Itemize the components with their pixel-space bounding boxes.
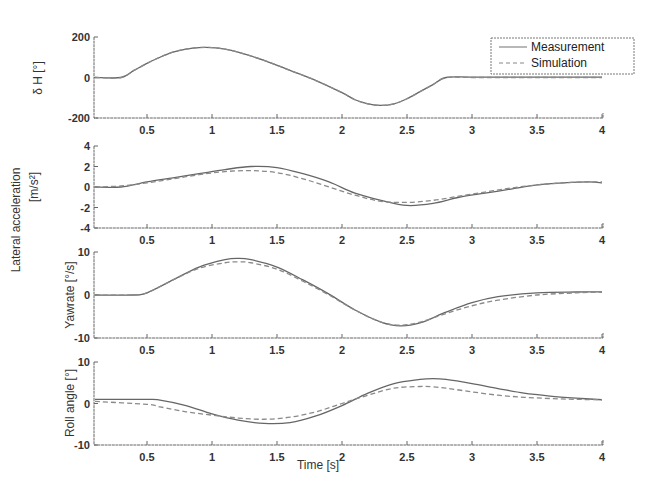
x-tick-label: 4 [599, 124, 606, 136]
y-tick-label: 200 [72, 31, 90, 43]
measurement-line [95, 166, 602, 205]
legend-measurement-label: Measurement [531, 40, 605, 54]
x-tick-label: 1 [209, 124, 215, 136]
x-tick-label: 1.5 [269, 124, 284, 136]
x-tick-label: 2 [339, 234, 345, 246]
x-tick-label: 2.5 [399, 344, 414, 356]
x-tick-label: 1 [209, 234, 215, 246]
y-tick-label: 0 [84, 181, 90, 193]
x-tick-label: 4 [599, 451, 606, 463]
x-axis-label: Time [s] [297, 458, 339, 472]
lateral-acceleration-ylabel: Lateral acceleration [9, 168, 23, 273]
axes-frame [94, 252, 603, 338]
yawrate-ylabel: Yawrate [°/s] [63, 261, 77, 328]
x-tick-label: 4 [599, 344, 606, 356]
x-tick-label: 3.5 [529, 451, 544, 463]
y-tick-label: 4 [84, 140, 91, 152]
measurement-line [95, 258, 602, 326]
y-tick-label: 10 [78, 246, 90, 258]
axes-frame [94, 362, 603, 445]
x-tick-label: 1.5 [269, 344, 284, 356]
legend: Measurement Simulation [491, 38, 634, 74]
x-tick-label: 4 [599, 234, 606, 246]
y-tick-label: -4 [80, 222, 91, 234]
y-tick-label: 0 [84, 72, 90, 84]
x-tick-label: 3 [469, 344, 475, 356]
roll-angle-panel: 100-100.511.522.533.54 [74, 356, 606, 463]
x-tick-label: 0.5 [139, 344, 154, 356]
legend-simulation-label: Simulation [531, 56, 587, 70]
y-tick-label: 0 [84, 289, 90, 301]
x-tick-label: 3.5 [529, 344, 544, 356]
x-tick-label: 3 [469, 234, 475, 246]
y-tick-label: -10 [74, 439, 90, 451]
x-tick-label: 2.5 [399, 451, 414, 463]
steering-angle-ylabel: δ H [°] [31, 61, 45, 94]
x-tick-label: 0.5 [139, 451, 154, 463]
x-tick-label: 0.5 [139, 234, 154, 246]
lateral-acceleration-unit: [m/s²] [27, 172, 41, 202]
x-tick-label: 3.5 [529, 234, 544, 246]
yawrate-panel: 100-100.511.522.533.54 [74, 246, 606, 356]
x-tick-label: 0.5 [139, 124, 154, 136]
x-tick-label: 2 [339, 124, 345, 136]
x-tick-label: 2.5 [399, 124, 414, 136]
y-tick-label: 10 [78, 356, 90, 368]
x-tick-label: 3.5 [529, 124, 544, 136]
x-tick-label: 2 [339, 344, 345, 356]
y-tick-label: 2 [84, 161, 90, 173]
x-tick-label: 1.5 [269, 234, 284, 246]
x-tick-label: 1 [209, 451, 215, 463]
x-tick-label: 2.5 [399, 234, 414, 246]
x-tick-label: 2 [339, 451, 345, 463]
x-tick-label: 1 [209, 344, 215, 356]
figure: 2000-2000.511.522.533.54420-2-40.511.522… [0, 0, 653, 494]
x-tick-label: 1.5 [269, 451, 284, 463]
y-tick-label: 0 [84, 398, 90, 410]
roll-angle-ylabel: Roll angle [°] [63, 369, 77, 437]
x-tick-label: 3 [469, 124, 475, 136]
y-tick-label: -200 [68, 112, 90, 124]
y-tick-label: -10 [74, 332, 90, 344]
x-tick-label: 3 [469, 451, 475, 463]
y-tick-label: -2 [80, 202, 90, 214]
lateral-acceleration-panel: 420-2-40.511.522.533.54 [80, 140, 606, 246]
